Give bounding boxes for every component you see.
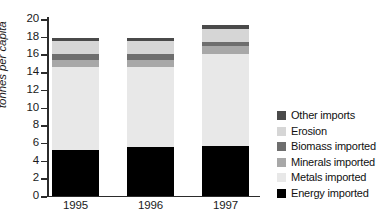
legend-item[interactable]: Minerals imported [277,155,389,171]
bar-segment-biomass-imported [202,42,249,46]
y-axis-tick-mark [41,161,47,163]
bar-segment-energy-imported [52,150,99,196]
y-axis-tick-mark [41,125,47,127]
y-axis-tick-label: 10 [27,102,39,114]
bar-segment-minerals-imported [52,60,99,67]
legend-swatch-other-imports [277,111,286,120]
y-axis-title: tonnes per capita [0,21,8,108]
y-axis-tick-label: 18 [27,31,39,43]
y-axis-tick-label: 12 [27,84,39,96]
y-axis-tick-mark [41,196,47,198]
x-axis-tick-label: 1997 [213,199,238,211]
bar-1997 [202,25,249,196]
bar-segment-minerals-imported [202,46,249,54]
y-axis-tick-label: 20 [27,13,39,25]
legend-swatch-metals-imported [277,173,286,182]
bar-segment-other-imports [202,25,249,29]
bar-segment-biomass-imported [52,54,99,59]
legend-swatch-minerals-imported [277,158,286,167]
legend-item-label: Other imports [291,110,355,121]
y-axis-tick-mark [41,54,47,56]
bar-segment-minerals-imported [127,60,174,67]
y-axis-tick-label: 8 [33,119,39,131]
y-axis-tick-mark [41,19,47,21]
bar-1996 [127,38,174,196]
bar-segment-erosion [202,29,249,42]
legend-item-label: Biomass imported [291,141,376,152]
bar-segment-metals-imported [202,54,249,145]
y-axis-tick-mark [41,143,47,145]
y-axis-tick-label: 0 [33,190,39,202]
y-axis-tick-mark [41,37,47,39]
y-axis-tick-label: 16 [27,49,39,61]
legend-item[interactable]: Other imports [277,108,389,124]
x-axis-tick-label: 1996 [138,199,163,211]
y-axis-tick-label: 14 [27,66,39,78]
y-axis-tick-label: 6 [33,137,39,149]
bar-segment-energy-imported [202,146,249,196]
bar-segment-erosion [52,41,99,54]
y-axis-tick-label: 2 [33,173,39,185]
legend-swatch-erosion [277,127,286,136]
x-axis-tick-label: 1995 [63,199,88,211]
legend-item[interactable]: Erosion [277,124,389,140]
legend-item-label: Minerals imported [291,157,375,168]
legend-item[interactable]: Metals imported [277,170,389,186]
chart-legend: Other importsErosionBiomass importedMine… [277,108,389,201]
bar-segment-biomass-imported [127,54,174,59]
chart-figure: tonnes per capita 02468101214161820 1995… [0,0,390,223]
y-axis-tick-mark [41,178,47,180]
plot-area: 02468101214161820 [47,19,260,196]
bar-segment-erosion [127,41,174,54]
legend-item-label: Metals imported [291,172,366,183]
bar-segment-other-imports [52,38,99,42]
bar-segment-other-imports [127,38,174,42]
y-axis-tick-mark [41,108,47,110]
y-axis-tick-label: 4 [33,155,39,167]
bar-segment-metals-imported [52,67,99,150]
legend-swatch-biomass-imported [277,142,286,151]
legend-item[interactable]: Biomass imported [277,139,389,155]
bar-1995 [52,38,99,196]
legend-item[interactable]: Energy imported [277,186,389,202]
y-axis-tick-mark [41,72,47,74]
legend-item-label: Erosion [291,126,327,137]
bar-segment-metals-imported [127,67,174,148]
legend-swatch-energy-imported [277,189,286,198]
bar-segment-energy-imported [127,147,174,196]
y-axis-tick-mark [41,90,47,92]
legend-item-label: Energy imported [291,188,369,199]
